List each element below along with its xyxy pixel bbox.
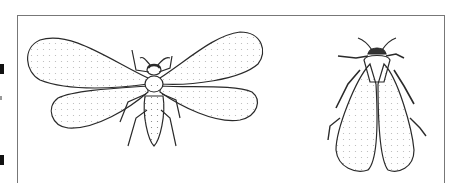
insect-wings-folded <box>328 38 426 171</box>
insect-illustration <box>0 0 459 183</box>
insect-wings-spread <box>28 32 263 146</box>
illustration-canvas <box>0 0 459 183</box>
